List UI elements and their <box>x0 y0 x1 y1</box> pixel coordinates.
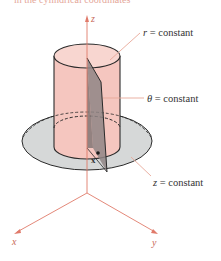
z-leader-line <box>131 157 151 176</box>
point-label: x <box>91 155 96 165</box>
z-constant-label: z = constant <box>152 177 203 188</box>
r-constant-label: r = constant <box>143 27 193 38</box>
cylindrical-coordinates-diagram: x r = constant θ = constant z = constant… <box>0 0 221 261</box>
y-axis <box>87 193 158 234</box>
x-axis-label: x <box>11 236 17 247</box>
point-marker <box>96 151 100 155</box>
r-leader-line <box>110 33 140 60</box>
x-axis <box>14 193 87 234</box>
y-axis-label: y <box>151 237 157 248</box>
z-axis-label: z <box>90 13 95 24</box>
theta-constant-label: θ = constant <box>147 93 198 104</box>
